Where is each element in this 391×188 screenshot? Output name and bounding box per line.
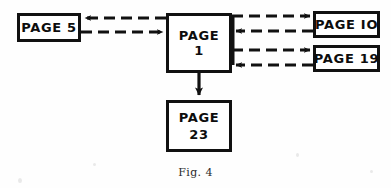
node-page-23-number: 23 [189, 128, 209, 141]
figure-caption: Fig. 4 [0, 166, 391, 179]
node-page-10[interactable]: PAGE IO [313, 11, 380, 38]
node-page-5[interactable]: PAGE 5 [17, 13, 81, 42]
node-page-19[interactable]: PAGE 19 [313, 45, 380, 72]
node-page-1[interactable]: PAGE 1 [166, 13, 232, 73]
node-page-5-label: PAGE 5 [21, 21, 77, 34]
node-page-23-label: PAGE [179, 111, 220, 124]
scan-speckle [93, 163, 96, 166]
node-page-19-label: PAGE 19 [314, 52, 379, 65]
scan-speckle [370, 170, 373, 173]
scan-speckle [18, 178, 22, 183]
node-page-23[interactable]: PAGE 23 [166, 100, 232, 152]
node-page-1-number: 1 [194, 44, 204, 57]
node-page-1-label: PAGE [179, 29, 220, 42]
node-page-10-label: PAGE IO [315, 18, 378, 31]
scan-speckle [296, 153, 299, 157]
figure-diagram: PAGE 5 PAGE 1 PAGE IO PAGE 19 PAGE 23 Fi… [0, 0, 391, 188]
